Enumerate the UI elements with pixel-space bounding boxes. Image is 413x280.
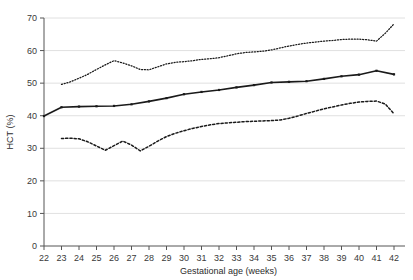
x-tick-label-22: 22 <box>39 253 49 263</box>
x-tick-label-35: 35 <box>266 253 276 263</box>
y-tick-label-10: 10 <box>27 209 37 219</box>
data-point-marker <box>43 115 45 117</box>
x-tick-label-36: 36 <box>284 253 294 263</box>
y-tick-label-0: 0 <box>32 241 37 251</box>
data-point-marker <box>95 105 97 107</box>
x-tick-label-33: 33 <box>231 253 241 263</box>
x-tick-label-39: 39 <box>336 253 346 263</box>
data-point-marker <box>113 105 115 107</box>
y-axis-title: HCT (%) <box>5 115 15 150</box>
y-tick-label-50: 50 <box>27 78 37 88</box>
x-tick-label-32: 32 <box>214 253 224 263</box>
x-tick-label-42: 42 <box>389 253 399 263</box>
data-point-marker <box>130 103 132 105</box>
chart-container: 010203040506070 222324252627282930313233… <box>0 0 413 280</box>
data-point-marker <box>183 93 185 95</box>
data-point-marker <box>358 74 360 76</box>
x-tick-label-37: 37 <box>301 253 311 263</box>
data-point-marker <box>393 73 395 75</box>
x-tick-label-28: 28 <box>144 253 154 263</box>
y-tick-label-60: 60 <box>27 46 37 56</box>
data-point-marker <box>200 91 202 93</box>
chart-background <box>0 0 413 280</box>
x-tick-label-29: 29 <box>161 253 171 263</box>
hct-gestational-age-line-chart: 010203040506070 222324252627282930313233… <box>0 0 413 280</box>
data-point-marker <box>253 84 255 86</box>
data-point-marker <box>218 89 220 91</box>
x-tick-label-41: 41 <box>371 253 381 263</box>
data-point-marker <box>78 105 80 107</box>
data-point-marker <box>235 86 237 88</box>
x-tick-label-31: 31 <box>196 253 206 263</box>
y-tick-label-30: 30 <box>27 143 37 153</box>
x-tick-label-34: 34 <box>249 253 259 263</box>
x-tick-label-26: 26 <box>109 253 119 263</box>
data-point-marker <box>305 80 307 82</box>
x-tick-label-38: 38 <box>319 253 329 263</box>
data-point-marker <box>148 100 150 102</box>
y-tick-label-20: 20 <box>27 176 37 186</box>
data-point-marker <box>375 70 377 72</box>
x-tick-label-24: 24 <box>74 253 84 263</box>
x-tick-label-23: 23 <box>56 253 66 263</box>
data-point-marker <box>288 81 290 83</box>
data-point-marker <box>340 75 342 77</box>
x-tick-label-25: 25 <box>91 253 101 263</box>
y-tick-label-40: 40 <box>27 111 37 121</box>
data-point-marker <box>165 97 167 99</box>
data-point-marker <box>60 106 62 108</box>
x-tick-label-30: 30 <box>179 253 189 263</box>
data-point-marker <box>323 78 325 80</box>
x-tick-label-27: 27 <box>126 253 136 263</box>
y-tick-label-70: 70 <box>27 13 37 23</box>
data-point-marker <box>270 81 272 83</box>
x-axis-title: Gestational age (weeks) <box>180 266 277 276</box>
x-tick-label-40: 40 <box>354 253 364 263</box>
